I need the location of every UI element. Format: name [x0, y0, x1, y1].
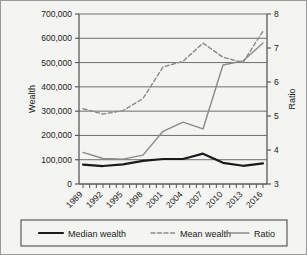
- x-tick-label: 2010: [204, 189, 225, 210]
- left-tick-label: 200,000: [41, 130, 72, 140]
- x-tick-label: 1989: [64, 189, 85, 210]
- right-tick-label: 5: [274, 111, 279, 121]
- left-tick-label: 700,000: [41, 9, 72, 19]
- right-tick-label: 6: [274, 77, 279, 87]
- x-tick-label: 2001: [144, 189, 165, 210]
- right-tick-label: 3: [274, 179, 279, 189]
- x-tick-label: 1992: [84, 189, 105, 210]
- left-tick-label: 0: [67, 179, 72, 189]
- x-tick-label: 2016: [244, 189, 265, 210]
- right-tick-label: 4: [274, 145, 279, 155]
- x-axis-tick-labels: 1989199219951998200120042007201020132016: [64, 189, 265, 210]
- left-tick-label: 100,000: [41, 155, 72, 165]
- legend-label-median-wealth: Median wealth: [68, 229, 126, 239]
- left-tick-label: 600,000: [41, 33, 72, 43]
- x-tick-label: 2013: [224, 189, 245, 210]
- right-axis-tick-labels: 345678: [274, 9, 279, 189]
- right-tick-label: 8: [274, 9, 279, 19]
- legend-label-mean-wealth: Mean wealth: [180, 229, 231, 239]
- x-tick-label: 1998: [124, 189, 145, 210]
- y2-axis-title: Ratio: [287, 88, 297, 109]
- legend-label-ratio: Ratio: [254, 229, 275, 239]
- left-tick-label: 400,000: [41, 82, 72, 92]
- x-tick-label: 2004: [164, 189, 185, 210]
- left-axis-tick-labels: 0100,000200,000300,000400,000500,000600,…: [41, 9, 72, 189]
- right-tick-label: 7: [274, 43, 279, 53]
- x-tick-label: 2007: [184, 189, 205, 210]
- left-tick-label: 300,000: [41, 106, 72, 116]
- y-axis-title: Wealth: [27, 85, 37, 113]
- x-tick-label: 1995: [104, 189, 125, 210]
- left-tick-label: 500,000: [41, 58, 72, 68]
- chart-figure: 0100,000200,000300,000400,000500,000600,…: [0, 0, 307, 255]
- wealth-ratio-line-chart: 0100,000200,000300,000400,000500,000600,…: [1, 1, 307, 255]
